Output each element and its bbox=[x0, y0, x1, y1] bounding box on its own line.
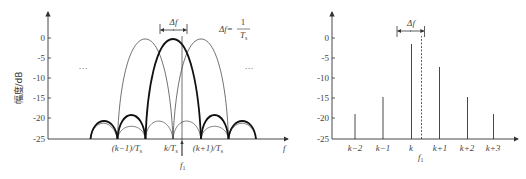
right-xlabel-k-minus-1: k−1 bbox=[376, 143, 391, 153]
bold-sinc-curve bbox=[91, 39, 257, 139]
left-ytick-15: -15 bbox=[33, 93, 45, 103]
left-ytick-20: -20 bbox=[33, 113, 45, 123]
f1-label: f1 bbox=[180, 160, 186, 171]
delta-f-equation: Δf= bbox=[218, 24, 233, 34]
right-ytick-0: 0 bbox=[325, 33, 330, 43]
right-xlabel-k-plus-2: k+2 bbox=[460, 143, 475, 153]
right-ytick-20: -20 bbox=[317, 113, 329, 123]
xlabel-k-plus-1: (k+1)/Ts bbox=[193, 143, 224, 154]
axis-f-label: f bbox=[283, 143, 287, 153]
right-ytick-25: -25 bbox=[317, 134, 329, 144]
right-ytick-15: -15 bbox=[317, 93, 329, 103]
right-delta-f-label: Δf bbox=[406, 18, 416, 28]
right-f1-label: f1 bbox=[418, 152, 424, 163]
left-chart: 0 -5 -10 -15 -20 -25 幅度/dB ··· ··· bbox=[13, 12, 288, 171]
right-chart: 0 -5 -10 -15 -20 -25 Δf k−2 k−1 k k+1 k+… bbox=[317, 12, 518, 163]
frac-denominator: Ts bbox=[240, 30, 248, 41]
left-ytick-5: -5 bbox=[38, 53, 46, 63]
right-xlabel-k: k bbox=[409, 143, 414, 153]
left-ellipsis-right: ··· bbox=[245, 63, 254, 73]
left-y-label: 幅度/dB bbox=[13, 72, 24, 105]
right-xlabel-k-plus-3: k+3 bbox=[486, 143, 501, 153]
right-ytick-10: -10 bbox=[317, 73, 329, 83]
delta-f-label: Δf bbox=[169, 17, 179, 27]
right-ytick-5: -5 bbox=[322, 53, 330, 63]
right-xlabel-k-minus-2: k−2 bbox=[348, 143, 363, 153]
sinc-k-main bbox=[146, 39, 202, 139]
left-ytick-10: -10 bbox=[33, 73, 45, 83]
xlabel-k: k/Ts bbox=[164, 143, 179, 154]
spectral-leakage-diagram: 0 -5 -10 -15 -20 -25 幅度/dB ··· ··· bbox=[0, 0, 526, 179]
sinc-k-minus-1-main bbox=[118, 39, 174, 139]
frac-numerator: 1 bbox=[241, 17, 246, 27]
left-ellipsis-left: ··· bbox=[79, 63, 88, 73]
spectral-lines bbox=[355, 44, 494, 139]
right-xlabel-k-plus-1: k+1 bbox=[433, 143, 448, 153]
left-ytick-0: 0 bbox=[41, 33, 46, 43]
thin-sinc-curves bbox=[91, 39, 257, 139]
left-ytick-25: -25 bbox=[33, 134, 45, 144]
xlabel-k-minus-1: (k−1)/Ts bbox=[112, 143, 143, 154]
